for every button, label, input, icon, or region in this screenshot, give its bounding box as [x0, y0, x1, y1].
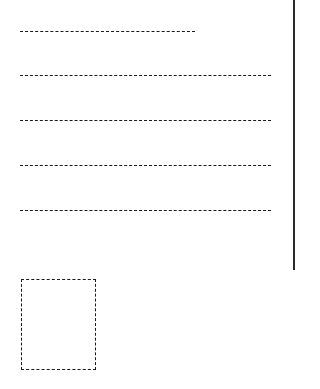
stamp-box: [21, 279, 96, 370]
write-line-4[interactable]: [20, 165, 271, 166]
write-line-2[interactable]: [20, 75, 271, 76]
write-line-3[interactable]: [20, 120, 271, 121]
write-line-5[interactable]: [20, 210, 271, 211]
vertical-divider: [293, 0, 295, 270]
write-line-1[interactable]: [20, 31, 195, 32]
